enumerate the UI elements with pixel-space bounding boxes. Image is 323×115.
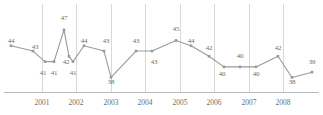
data-point-marker [53, 60, 56, 63]
data-point-value: 43 [103, 38, 110, 45]
x-tick-2007: 2007 [242, 99, 257, 107]
data-point-value: 43 [32, 44, 39, 51]
data-point-value: 38 [108, 79, 115, 86]
data-point-marker [135, 50, 138, 53]
data-point-value: 41 [70, 70, 77, 77]
x-tick-2008: 2008 [276, 99, 291, 107]
line-chart: 4443414147424144433843434544424040404238… [0, 0, 323, 115]
data-point-marker [208, 55, 211, 58]
data-point-marker [223, 66, 226, 69]
x-axis-line [4, 92, 319, 93]
data-point-marker [255, 66, 258, 69]
data-point-value: 41 [51, 70, 58, 77]
data-point-marker [239, 66, 242, 69]
data-point-marker [44, 60, 47, 63]
data-point-marker [151, 50, 154, 53]
data-point-value: 42 [63, 59, 70, 66]
data-point-marker [277, 55, 280, 58]
x-tick-2005: 2005 [173, 99, 188, 107]
data-point-value: 42 [206, 45, 213, 52]
x-tick-2003: 2003 [104, 99, 119, 107]
x-tick-2001: 2001 [35, 99, 50, 107]
data-point-value: 43 [133, 38, 140, 45]
data-point-value: 43 [151, 59, 158, 66]
data-point-value: 40 [253, 71, 260, 78]
x-tick-2002: 2002 [69, 99, 84, 107]
data-point-value: 39 [309, 59, 316, 66]
data-point-marker [311, 71, 314, 74]
data-point-value: 47 [61, 15, 68, 22]
x-tick-2006: 2006 [207, 99, 222, 107]
data-point-value: 41 [40, 70, 47, 77]
data-point-marker [63, 29, 66, 32]
data-point-value: 40 [219, 71, 226, 78]
data-point-marker [72, 60, 75, 63]
data-point-value: 42 [275, 45, 282, 52]
data-point-value: 38 [289, 79, 296, 86]
data-point-value: 44 [8, 38, 15, 45]
data-point-value: 44 [188, 38, 195, 45]
data-point-value: 45 [173, 26, 180, 33]
data-point-value: 40 [237, 53, 244, 60]
data-point-marker [103, 50, 106, 53]
x-tick-2004: 2004 [138, 99, 153, 107]
data-point-value: 44 [81, 38, 88, 45]
data-point-marker [175, 39, 178, 42]
